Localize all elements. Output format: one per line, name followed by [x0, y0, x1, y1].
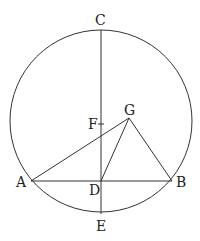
label-A: A	[15, 174, 27, 190]
label-F: F	[88, 116, 98, 132]
label-C: C	[95, 12, 106, 28]
segment-AG	[31, 118, 129, 181]
label-G: G	[124, 102, 135, 118]
segment-GB	[129, 118, 172, 181]
label-D: D	[89, 182, 100, 198]
geometry-diagram: C F G A B D E	[0, 0, 200, 241]
label-B: B	[176, 174, 186, 190]
label-E: E	[96, 218, 106, 234]
